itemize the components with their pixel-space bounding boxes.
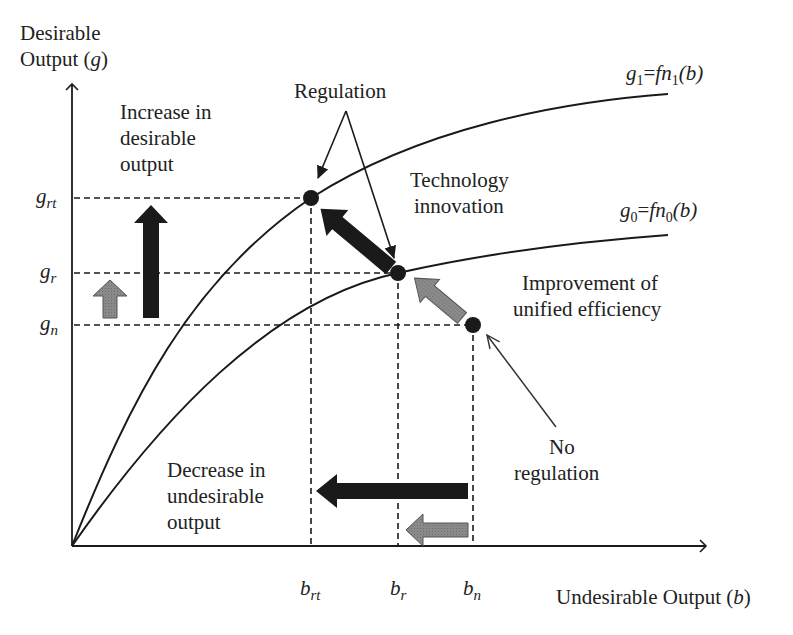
x-tick-br: br: [390, 576, 407, 603]
y-tick-grt: grt: [36, 184, 57, 211]
no-regulation-pointer: [487, 335, 556, 427]
decrease-label-line1: Decrease in: [167, 458, 266, 482]
arrow-up-gray: [93, 280, 127, 318]
curve-g0-label: g0=fn0(b): [620, 198, 697, 225]
x-tick-brt: brt: [300, 576, 321, 603]
tech-label-line1: Technology: [410, 168, 509, 192]
diagram-canvas: Desirable Output (g) Undesirable Output …: [0, 0, 793, 635]
decrease-label-line2: undesirable: [167, 484, 264, 508]
regulation-label: Regulation: [294, 79, 387, 103]
increase-label-line2: desirable: [120, 126, 196, 150]
arrow-efficiency: [405, 267, 472, 330]
improve-label-line1: Improvement of: [522, 271, 658, 295]
point-regulation-tech: [303, 190, 319, 206]
increase-label-line3: output: [120, 152, 174, 176]
arrow-left-gray: [406, 514, 468, 546]
noreg-label-line2: regulation: [514, 461, 600, 485]
y-tick-gr: gr: [40, 259, 57, 286]
point-no-regulation: [465, 317, 481, 333]
decrease-label-line3: output: [167, 510, 221, 534]
noreg-label-line1: No: [549, 435, 575, 459]
point-regulation: [390, 265, 406, 281]
curve-g1-label: g1=fn1(b): [626, 61, 703, 88]
arrow-up-black: [134, 205, 168, 318]
x-tick-bn: bn: [463, 576, 481, 603]
x-axis-label: Undesirable Output (b): [556, 585, 751, 609]
y-axis-label-line2: Output (g): [20, 47, 108, 71]
arrow-left-black: [316, 474, 468, 508]
tech-label-line2: innovation: [414, 194, 504, 218]
increase-label-line1: Increase in: [120, 100, 212, 124]
y-axis-label-line1: Desirable: [20, 21, 100, 45]
y-tick-gn: gn: [40, 311, 58, 338]
improve-label-line2: unified efficiency: [513, 297, 662, 321]
